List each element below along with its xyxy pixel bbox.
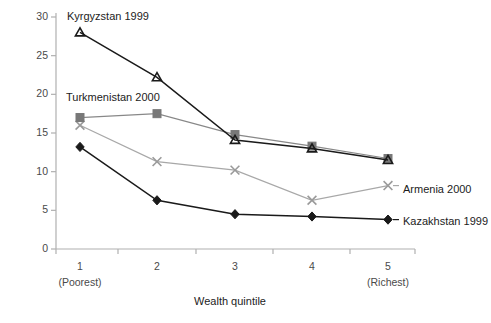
y-tick-label-25: 25 xyxy=(26,50,48,61)
series-line xyxy=(80,147,388,220)
series-kazakhstan-1999 xyxy=(76,142,392,224)
series-label-kazakhstan: Kazakhstan 1999 xyxy=(403,216,488,227)
y-tick-label-15: 15 xyxy=(26,127,48,138)
x-tick-label-4: 4 xyxy=(292,261,332,272)
y-tick-label-5: 5 xyxy=(26,204,48,215)
data-point-marker xyxy=(384,215,392,224)
x-sublabel-richest: (Richest) xyxy=(358,277,418,288)
x-sublabel-poorest: (Poorest) xyxy=(50,277,110,288)
y-tick-label-0: 0 xyxy=(26,243,48,254)
data-point-marker xyxy=(76,114,84,122)
series-label-armenia: Armenia 2000 xyxy=(403,184,472,195)
y-tick-label-30: 30 xyxy=(26,11,48,22)
chart-plot-area xyxy=(0,0,491,323)
data-point-marker xyxy=(308,212,316,221)
x-tick-label-1: 1 xyxy=(60,261,100,272)
series-label-kyrgyzstan: Kyrgyzstan 1999 xyxy=(67,11,149,22)
x-tick-label-2: 2 xyxy=(137,261,177,272)
data-point-marker xyxy=(153,196,161,205)
y-tick-label-10: 10 xyxy=(26,166,48,177)
x-tick-label-3: 3 xyxy=(215,261,255,272)
chart-container: 30 25 20 15 10 5 0 1 2 3 4 5 (Poorest) (… xyxy=(0,0,491,323)
data-point-marker xyxy=(76,121,85,130)
annotation-leader-line xyxy=(84,26,96,28)
data-point-marker xyxy=(76,142,84,151)
x-tick-label-5: 5 xyxy=(368,261,408,272)
series-label-turkmenistan: Turkmenistan 2000 xyxy=(66,92,160,103)
data-point-marker xyxy=(231,210,239,219)
data-point-marker xyxy=(75,28,84,36)
x-axis-title: Wealth quintile xyxy=(155,296,305,307)
y-tick-label-20: 20 xyxy=(26,88,48,99)
data-point-marker xyxy=(153,110,161,118)
